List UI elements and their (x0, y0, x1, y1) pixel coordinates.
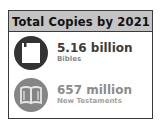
open-book-icon (19, 85, 43, 105)
closed-book-icon (21, 42, 41, 64)
new-testaments-label: New Testaments (57, 97, 132, 106)
card-title: Total Copies by 2021 (12, 14, 150, 29)
new-testament-icon-circle (14, 78, 48, 112)
new-testaments-count: 657 million (57, 84, 132, 97)
stat-row-new-testaments: 657 million New Testaments (14, 78, 132, 112)
bible-icon-circle (14, 36, 48, 70)
total-copies-card: Total Copies by 2021 5.16 billion Bibles… (8, 10, 153, 119)
card-header: Total Copies by 2021 (9, 11, 152, 32)
bibles-count: 5.16 billion (57, 42, 133, 55)
stat-row-bibles: 5.16 billion Bibles (14, 36, 133, 70)
bibles-label: Bibles (57, 55, 133, 64)
